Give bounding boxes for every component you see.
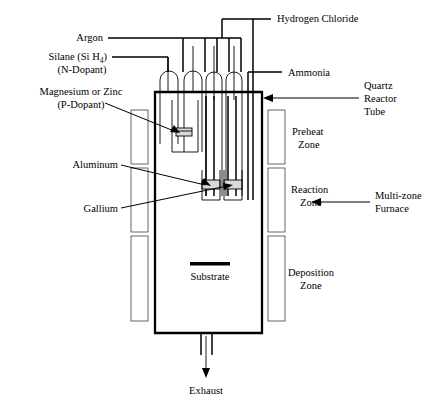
exhaust-flow-arrow-head [202, 368, 210, 378]
quartz-reactor-tube-label-line2: Reactor [364, 93, 397, 104]
magnesium-zinc-sleeve [172, 100, 198, 152]
quartz-reactor-tube [155, 92, 262, 333]
aluminum-label: Aluminum [72, 159, 118, 170]
exhaust-label: Exhaust [189, 385, 223, 396]
silane-label: Silane (Si H4) [48, 51, 107, 65]
preheat-zone-label-line1: Preheat [292, 126, 324, 137]
argon-manifold [108, 38, 241, 72]
gas-tube-1 [160, 71, 178, 144]
exhaust-assembly: Exhaust [189, 333, 223, 396]
furnace-block-preheat-right [268, 110, 285, 164]
deposition-zone-label-line2: Zone [300, 280, 322, 291]
diagram-canvas: Substrate Exhaust Argon Silane (Si H4) (… [0, 0, 441, 405]
quartz-reactor-tube-label-line3: Tube [364, 106, 386, 117]
reactor-tube-outline [155, 92, 262, 333]
quartz-reactor-tube-label-line1: Quartz [364, 80, 393, 91]
preheat-zone-label-line2: Zone [298, 139, 320, 150]
silane-feed [112, 57, 168, 72]
silane-label-main: Silane (Si H [48, 51, 100, 63]
furnace-block-reaction-right [268, 168, 285, 232]
quartz-reactor-tube-leader-arrow [263, 94, 273, 102]
silane-label-close: ) [104, 51, 108, 63]
cvd-reactor-diagram: Substrate Exhaust Argon Silane (Si H4) (… [0, 0, 441, 405]
hydrogen-chloride-label: Hydrogen Chloride [277, 13, 359, 24]
argon-label: Argon [76, 32, 103, 43]
furnace-block-preheat-left [131, 110, 148, 164]
furnace-block-deposition-left [131, 236, 148, 321]
right-labels: Hydrogen Chloride Ammonia Quartz Reactor… [263, 13, 422, 291]
substrate-assembly: Substrate [190, 262, 230, 282]
multizone-furnace-label-line1: Multi-zone [375, 190, 422, 201]
multizone-furnace-label-line2: Furnace [375, 203, 409, 214]
silane-ndopant-label: (N-Dopant) [58, 64, 107, 76]
furnace-block-deposition-right [268, 236, 285, 321]
furnace-block-reaction-left [131, 168, 148, 232]
magnesium-zinc-pdopant-label: (P-Dopant) [57, 99, 105, 111]
substrate-label: Substrate [190, 271, 229, 282]
gallium-label: Gallium [84, 203, 118, 214]
deposition-zone-label-line1: Deposition [288, 267, 335, 278]
magnesium-zinc-label: Magnesium or Zinc [40, 86, 123, 97]
reaction-zone-label-line1: Reaction [291, 184, 329, 195]
ammonia-label: Ammonia [288, 67, 330, 78]
substrate-bar [190, 262, 230, 266]
